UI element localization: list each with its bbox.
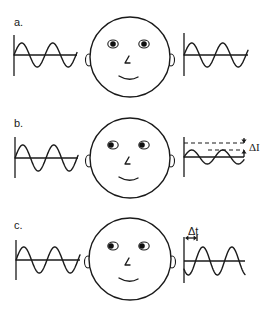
right-waveform [184,237,245,283]
left-waveform [16,240,80,280]
left-eye-icon [108,40,118,48]
delta-intensity-annotation: ΔI [184,138,260,157]
right-waveform [184,33,248,76]
face [86,118,175,198]
head-outline [90,118,170,198]
left-eye-icon [108,141,118,149]
panel-label: b. [14,117,23,129]
head-outline [89,218,171,300]
right-eye-icon [139,242,149,250]
left-waveform [14,35,77,76]
panel-b: b.ΔI [14,117,260,198]
face [86,17,175,97]
arrowhead-icon [241,150,246,153]
right-eye-icon [139,40,149,48]
panel-label: c. [14,219,23,231]
binaural-hearing-diagram: a. b.ΔI c.Δt [0,0,270,309]
left-eye-icon [108,242,118,250]
delta-time-annotation: Δt [185,225,198,241]
left-waveform [15,137,78,178]
panel-label: a. [14,16,23,28]
panel-c: c.Δt [14,218,245,300]
panel-a: a. [14,16,248,97]
face [85,218,176,300]
delta-i-label: ΔI [249,141,260,153]
right-eye-icon [139,141,149,149]
delta-t-label: Δt [188,225,198,237]
head-outline [90,17,170,97]
